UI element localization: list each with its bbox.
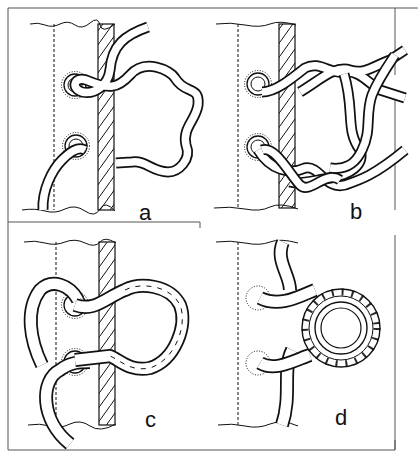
panel-label-d: d: [335, 405, 347, 430]
panel-a: a: [22, 20, 198, 225]
panel-b: b: [214, 22, 405, 224]
panel-label-c: c: [145, 407, 156, 432]
panel-c: c: [24, 239, 182, 444]
panel-d: d: [216, 240, 380, 430]
panel-label-a: a: [139, 200, 152, 225]
thimble: [302, 289, 380, 367]
panel-label-b: b: [350, 199, 362, 224]
cringle-diagram: a b: [0, 0, 418, 455]
